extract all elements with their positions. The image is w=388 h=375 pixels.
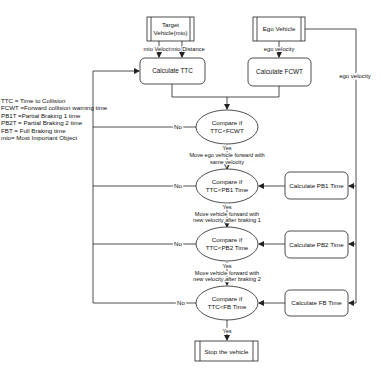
ego-vehicle-node: Ego Vehicle: [253, 17, 305, 41]
action-3-line-2: new velocity after braking 2: [193, 276, 261, 282]
stop-vehicle-label: Stop the vehicle: [204, 348, 249, 355]
calculate-ttc-node: Calculate TTC: [140, 58, 205, 84]
action-2-line-2: new velocity after braking 1: [193, 217, 261, 223]
compare-pb1-decision: Compare if TTC<PB1 Time: [196, 169, 258, 203]
yes-label-1: Yes: [222, 145, 231, 151]
compare-pb2-decision: Compare if TTC<PB2 Time: [196, 227, 258, 261]
calculate-ttc-label: Calculate TTC: [152, 67, 193, 74]
no-label-3: No: [174, 240, 182, 247]
compare-pb1-label-2: TTC<PB1 Time: [206, 186, 249, 193]
action-1-line-1: Move ego vehicle forward with: [189, 152, 264, 158]
compare-fcwt-label-1: Compare if: [212, 119, 243, 126]
target-vehicle-node: Target Vehicle(mio): [147, 17, 194, 41]
compare-fb-decision: Compare if TTC<FB Time: [196, 286, 258, 320]
ego-velocity-side-label: ego velocity: [339, 73, 371, 79]
calculate-pb1-node: Calculate PB1 Time: [285, 172, 348, 199]
target-vehicle-label-1: Target: [162, 21, 179, 28]
compare-pb2-label-1: Compare if: [212, 236, 243, 243]
mio-velocity-label: mio Velocity: [144, 46, 175, 52]
calculate-pb1-label: Calculate PB1 Time: [289, 182, 344, 189]
calculate-pb2-node: Calculate PB2 Time: [285, 231, 348, 258]
target-vehicle-label-2: Vehicle(mio): [153, 29, 187, 36]
calculate-pb2-label: Calculate PB2 Time: [289, 241, 344, 248]
compare-fb-label-1: Compare if: [212, 295, 243, 302]
yes-label-3: Yes: [222, 263, 231, 269]
no-label-1: No: [174, 123, 182, 130]
compare-pb2-label-2: TTC<PB2 Time: [206, 244, 249, 251]
yes-label-2: Yes: [222, 204, 231, 210]
yes-label-4: Yes: [222, 328, 231, 334]
flowchart: Target Vehicle(mio) Ego Vehicle mio Velo…: [0, 0, 388, 375]
mio-distance-label: mio Distance: [171, 46, 205, 52]
no-label-2: No: [174, 182, 182, 189]
action-1-line-2: same velocity: [210, 159, 244, 165]
compare-fcwt-decision: Compare if TTC<FCWT: [196, 110, 258, 144]
ego-velocity-top-label: ego velocity: [264, 46, 295, 52]
compare-fcwt-label-2: TTC<FCWT: [210, 127, 244, 134]
calculate-fb-node: Calculate FB Time: [285, 290, 348, 316]
stop-vehicle-node: Stop the vehicle: [195, 341, 258, 361]
ego-vehicle-label: Ego Vehicle: [263, 25, 296, 32]
calculate-fcwt-label: Calculate FCWT: [256, 68, 303, 75]
compare-fb-label-2: TTC<FB Time: [208, 303, 247, 310]
no-label-4: No: [177, 299, 185, 306]
calculate-fcwt-node: Calculate FCWT: [248, 58, 311, 86]
compare-pb1-label-1: Compare if: [212, 178, 243, 185]
calculate-fb-label: Calculate FB Time: [291, 299, 342, 306]
